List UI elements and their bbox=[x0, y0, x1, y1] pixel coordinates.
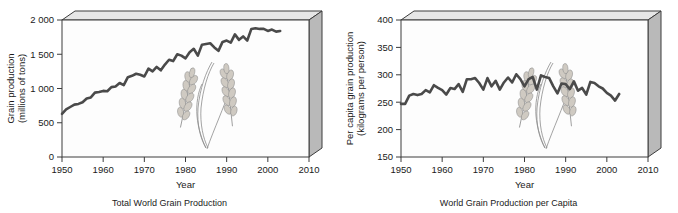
x-tick-label-2000: 2000 bbox=[596, 164, 617, 175]
plot-box-top-face bbox=[62, 11, 322, 20]
y-tick-label-250: 250 bbox=[377, 97, 393, 108]
y-axis-ticks bbox=[396, 20, 401, 157]
chart-svg-per-capita: 150 200 250 300 350 400 1950 1960 1970 1… bbox=[339, 0, 678, 213]
chart-caption: Total World Grain Production bbox=[112, 198, 227, 208]
x-axis-ticks bbox=[401, 157, 648, 162]
x-tick-label-1960: 1960 bbox=[93, 164, 114, 175]
x-tick-label-1990: 1990 bbox=[216, 164, 237, 175]
y-axis-title-line2: (millions of tons) bbox=[16, 54, 27, 123]
x-tick-label-1960: 1960 bbox=[432, 164, 453, 175]
y-tick-label-150: 150 bbox=[377, 151, 393, 162]
x-tick-label-1950: 1950 bbox=[390, 164, 411, 175]
plot-box-top-face bbox=[401, 11, 661, 20]
x-tick-label-2000: 2000 bbox=[257, 164, 278, 175]
y-tick-label-2000: 2 000 bbox=[30, 14, 54, 25]
y-tick-label-200: 200 bbox=[377, 124, 393, 135]
y-tick-label-300: 300 bbox=[377, 69, 393, 80]
y-axis-title-line1: Per capita grain production bbox=[344, 32, 355, 146]
y-tick-label-1500: 1 500 bbox=[30, 49, 54, 60]
x-axis-title: Year bbox=[176, 179, 195, 190]
y-axis-title-line2: (kilograms per person) bbox=[355, 41, 366, 136]
y-tick-label-350: 350 bbox=[377, 42, 393, 53]
x-tick-label-1980: 1980 bbox=[514, 164, 535, 175]
chart-svg-total-production: 0 500 1 000 1 500 2 000 1950 1960 1970 1… bbox=[0, 0, 339, 213]
x-tick-label-1990: 1990 bbox=[555, 164, 576, 175]
x-tick-label-1970: 1970 bbox=[473, 164, 494, 175]
y-tick-label-500: 500 bbox=[38, 117, 54, 128]
chart-panel-total-world-grain-production: 0 500 1 000 1 500 2 000 1950 1960 1970 1… bbox=[0, 0, 339, 213]
chart-panel-world-grain-production-per-capita: 150 200 250 300 350 400 1950 1960 1970 1… bbox=[339, 0, 678, 213]
x-tick-label-1980: 1980 bbox=[175, 164, 196, 175]
plot-box-right-face bbox=[648, 11, 661, 157]
x-tick-label-2010: 2010 bbox=[637, 164, 658, 175]
y-tick-label-1000: 1 000 bbox=[30, 83, 54, 94]
chart-caption: World Grain Production per Capita bbox=[440, 198, 577, 208]
x-tick-label-2010: 2010 bbox=[298, 164, 319, 175]
y-tick-label-0: 0 bbox=[49, 151, 54, 162]
y-tick-label-400: 400 bbox=[377, 14, 393, 25]
x-axis-ticks bbox=[62, 157, 309, 162]
y-axis-title-line1: Grain production bbox=[5, 53, 16, 123]
x-tick-label-1970: 1970 bbox=[134, 164, 155, 175]
y-axis-ticks bbox=[57, 20, 62, 157]
figure-two-grain-charts: 0 500 1 000 1 500 2 000 1950 1960 1970 1… bbox=[0, 0, 678, 213]
x-axis-title: Year bbox=[515, 179, 534, 190]
plot-box-right-face bbox=[309, 11, 322, 157]
x-tick-label-1950: 1950 bbox=[51, 164, 72, 175]
